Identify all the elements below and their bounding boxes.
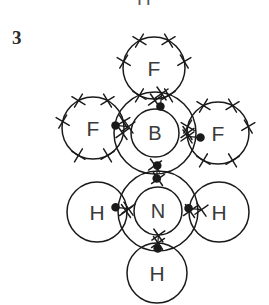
atom-label-h-right: H: [211, 201, 226, 224]
electron-cross-f-right: [226, 154, 239, 167]
electron-cross-f-left: [101, 94, 114, 107]
electron-cross-f-left: [72, 94, 85, 107]
dot-and-cross-figure: FFBFHNHH: [0, 0, 269, 305]
atom-label-h-bottom: H: [149, 262, 164, 285]
bond-b-f-right: [181, 130, 205, 144]
electron-cross-f-top: [133, 89, 146, 102]
electron-cross-f-right: [197, 99, 210, 112]
atom-label-f-top: F: [148, 57, 161, 80]
electron-cross-f-top: [162, 89, 175, 102]
atom-label-n-center: N: [151, 200, 165, 222]
atom-label-h-left: H: [89, 201, 104, 224]
electron-cross-f-right: [197, 154, 210, 167]
atom-label-f-left: F: [87, 117, 100, 140]
bond-n-h-right: [184, 202, 208, 216]
electron-cross-f-top: [162, 34, 175, 47]
atom-label-b-center: B: [148, 122, 161, 144]
diagram-page: 3 H FFBFHNHH: [0, 0, 269, 305]
electron-cross-f-top: [133, 34, 146, 47]
electron-cross-f-left: [72, 149, 85, 162]
electron-cross-f-left: [101, 149, 114, 162]
atom-label-f-right: F: [212, 122, 225, 145]
electron-cross-f-right: [226, 99, 239, 112]
bond-b-f-right-right-dot: [196, 133, 205, 142]
